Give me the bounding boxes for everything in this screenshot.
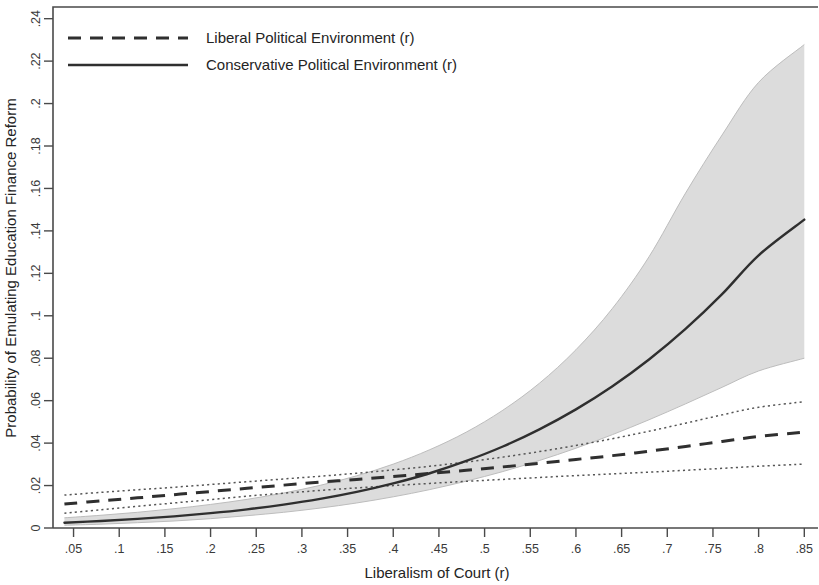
y-tick-label: 0: [29, 524, 43, 531]
legend-label-liberal: Liberal Political Environment (r): [206, 29, 414, 46]
y-tick-label: .24: [29, 10, 43, 27]
x-tick-label: .65: [613, 542, 630, 556]
confidence-band-conservative: [64, 45, 804, 526]
x-tick-label: .85: [796, 542, 813, 556]
y-tick-label: .08: [29, 349, 43, 366]
chart-svg: 0.02.04.06.08.1.12.14.16.18.2.22.24 .05.…: [0, 0, 819, 585]
x-tick-label: .75: [704, 542, 721, 556]
y-tick-label: .06: [29, 392, 43, 409]
y-tick-label: .1: [29, 311, 43, 321]
x-tick-label: .55: [522, 542, 539, 556]
y-axis-ticks: 0.02.04.06.08.1.12.14.16.18.2.22.24: [29, 10, 54, 532]
y-tick-label: .04: [29, 434, 43, 451]
x-tick-label: .3: [297, 542, 307, 556]
x-axis-ticks: .05.1.15.2.25.3.35.4.45.5.55.6.65.7.75.8…: [65, 528, 813, 556]
y-tick-label: .12: [29, 265, 43, 282]
x-tick-label: .45: [430, 542, 447, 556]
chart-figure: 0.02.04.06.08.1.12.14.16.18.2.22.24 .05.…: [0, 0, 819, 585]
x-tick-label: .05: [65, 542, 82, 556]
y-tick-label: .22: [29, 52, 43, 69]
x-tick-label: .35: [339, 542, 356, 556]
x-tick-label: .2: [205, 542, 215, 556]
x-tick-label: .7: [662, 542, 672, 556]
x-axis-title: Liberalism of Court (r): [364, 564, 509, 581]
x-tick-label: .4: [388, 542, 398, 556]
x-tick-label: .5: [479, 542, 489, 556]
y-axis-title: Probability of Emulating Education Finan…: [2, 98, 19, 437]
y-tick-label: .14: [29, 222, 43, 239]
y-tick-label: .02: [29, 477, 43, 494]
x-tick-label: .6: [571, 542, 581, 556]
x-tick-label: .8: [753, 542, 763, 556]
y-tick-label: .18: [29, 137, 43, 154]
chart-legend: Liberal Political Environment (r) Conser…: [68, 29, 457, 73]
y-tick-label: .16: [29, 180, 43, 197]
legend-label-conservative: Conservative Political Environment (r): [206, 56, 457, 73]
x-tick-label: .15: [156, 542, 173, 556]
x-tick-label: .25: [248, 542, 265, 556]
x-tick-label: .1: [114, 542, 124, 556]
y-tick-label: .2: [29, 98, 43, 108]
